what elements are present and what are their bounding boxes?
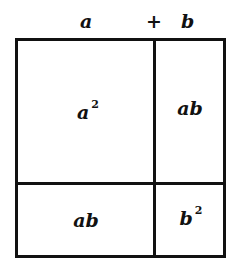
cell-ab-top-right: ab [177, 99, 203, 118]
outer-left-edge [15, 38, 18, 258]
outer-right-edge [223, 38, 226, 258]
cell-b-squared: b2 [180, 208, 203, 227]
outer-bottom-edge [15, 255, 225, 258]
cell-ab-bottom-left: ab [73, 211, 99, 230]
label-plus: + [146, 12, 162, 31]
label-a: a [80, 12, 92, 31]
vertical-divider [153, 38, 156, 258]
square-diagram: a + b a2 ab ab b2 [0, 0, 237, 271]
cell-a-squared: a2 [77, 102, 99, 121]
label-b: b [181, 12, 194, 31]
horizontal-divider [15, 182, 225, 185]
outer-top-edge [15, 38, 225, 41]
